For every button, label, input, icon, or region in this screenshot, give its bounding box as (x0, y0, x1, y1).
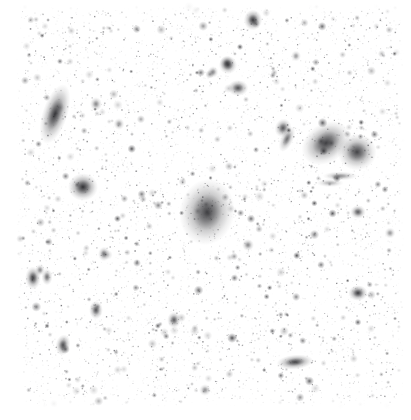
sky-image-field (0, 0, 411, 420)
image-viewport (0, 0, 411, 420)
sky-survey-canvas (0, 0, 411, 420)
